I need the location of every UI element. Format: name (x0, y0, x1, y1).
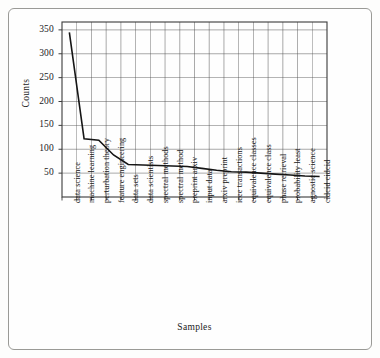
x-axis-tick-label: preprint arxiv (190, 157, 199, 203)
x-axis-tick-label: phase retrieval (279, 154, 288, 203)
x-axis-tick-label: ieee transactions (235, 147, 244, 203)
y-axis-tick-label: 150 (24, 119, 54, 129)
x-axis-tick-label: cidcid cidcid (323, 160, 332, 203)
y-axis-tick-label: 200 (24, 96, 54, 106)
x-axis-tick-label: probability least (293, 148, 302, 203)
x-axis-tick-label: input data (205, 169, 214, 203)
chart-figure: Counts 50100150200250300350 data science… (0, 0, 380, 358)
y-axis-tick-label: 350 (24, 24, 54, 34)
y-axis-tick-label: 100 (24, 143, 54, 153)
x-axis-tick-label: data scientists (146, 156, 155, 203)
y-axis-tick-label: 50 (24, 167, 54, 177)
x-axis-tick-label: perturbation theory (102, 138, 111, 203)
x-axis-tick-label: machine learning (87, 145, 96, 203)
y-axis-tick-label: 300 (24, 48, 54, 58)
x-axis-tick-labels: data sciencemachine learningperturbation… (62, 201, 327, 311)
x-axis-title: Samples (62, 322, 327, 332)
x-axis-tick-label: data sets (131, 174, 140, 203)
x-axis-tick-label: equivalence class (264, 144, 273, 203)
x-axis-tick-label: equivalence classes (249, 137, 258, 203)
x-axis-tick-label: agnostic science (308, 148, 317, 203)
x-axis-tick-label: spectral method (176, 149, 185, 203)
x-axis-tick-label: data science (73, 162, 82, 203)
x-axis-tick-label: feature engineering (117, 138, 126, 203)
y-axis-tick-label: 250 (24, 72, 54, 82)
x-axis-tick-label: arxiv preprint (220, 157, 229, 203)
x-axis-tick-label: spectral methods (161, 146, 170, 203)
